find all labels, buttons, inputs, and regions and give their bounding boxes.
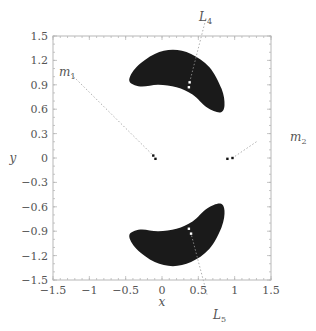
annotation-L4: L4 (198, 10, 212, 26)
x-tick-label: −0.5 (112, 284, 139, 297)
y-tick-label: 1.5 (31, 30, 49, 43)
x-tick-label: 0.5 (190, 284, 208, 297)
point-l4 (188, 81, 190, 83)
x-tick-label: 1 (231, 284, 238, 297)
point-m2 (226, 158, 228, 160)
crescent-regions (129, 50, 224, 266)
chart-canvas: −1.5−1−0.500.511.5 1.51.20.90.60.30−0.3−… (0, 0, 316, 331)
annotation-L5: L5 (212, 308, 226, 324)
point-m1 (154, 158, 156, 160)
point-m2 (231, 157, 233, 159)
y-tick-label: 0.6 (31, 103, 49, 116)
point-m1 (152, 154, 154, 156)
y-tick-label: 0.3 (31, 128, 49, 141)
y-tick-label: 0 (41, 152, 48, 165)
y-tick-label: −1.2 (21, 250, 48, 263)
x-tick-label: 1.5 (262, 284, 280, 297)
y-tick-label: −0.9 (21, 225, 48, 238)
y-tick-label: −0.3 (21, 176, 48, 189)
lower-crescent-region (129, 204, 224, 267)
y-tick-label: −0.6 (21, 201, 48, 214)
y-axis-label: y (9, 151, 17, 165)
upper-crescent-region (129, 50, 224, 113)
y-tick-label: 0.9 (31, 79, 49, 92)
y-tick-label: −1.5 (21, 274, 48, 287)
x-axis-label: x (159, 295, 166, 309)
point-l5 (190, 232, 192, 234)
annotation-m1: m1 (59, 65, 75, 81)
point-l4 (188, 86, 190, 88)
y-tick-labels: 1.51.20.90.60.30−0.3−0.6−0.9−1.2−1.5 (21, 30, 48, 287)
annotation-m2: m2 (290, 130, 306, 146)
point-l5 (188, 228, 190, 230)
guide-line-m2 (232, 142, 256, 158)
y-tick-label: 1.2 (31, 54, 49, 67)
x-tick-label: −1 (81, 284, 97, 297)
